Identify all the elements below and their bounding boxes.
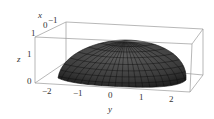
z-tick-0: 0 [27, 76, 32, 86]
z-tick-1: 1 [27, 49, 32, 59]
y-tick-minus-1: −1 [73, 88, 83, 98]
y-tick-1: 1 [139, 92, 144, 102]
x-axis: x 1 0 −1 [31, 10, 58, 38]
y-tick-0: 0 [108, 90, 113, 100]
y-tick-2: 2 [169, 94, 174, 104]
x-tick-1: 1 [31, 28, 36, 38]
dome-surface [55, 40, 190, 89]
z-axis: z 1 0 [16, 49, 32, 86]
surface-plot: x 1 0 −1 z 1 0 −2 −1 0 1 2 y [0, 0, 214, 119]
x-axis-label: x [37, 10, 42, 20]
x-tick-minus-1: −1 [48, 15, 58, 25]
z-axis-label: z [16, 54, 21, 64]
y-axis-label: y [107, 104, 112, 114]
y-tick-minus-2: −2 [42, 86, 52, 96]
